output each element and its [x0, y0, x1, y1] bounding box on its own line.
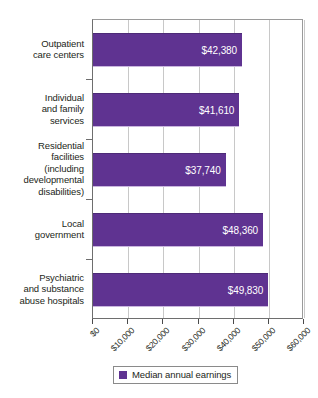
- bar-row: $49,830: [93, 273, 268, 307]
- legend-swatch-icon: [119, 371, 127, 379]
- bar-value-label: $37,740: [185, 165, 220, 176]
- bar-value-label: $41,610: [199, 105, 234, 116]
- chart-legend: Median annual earnings: [113, 366, 238, 384]
- category-label: Individualand familyservices: [0, 92, 84, 126]
- bar-value-label: $49,830: [228, 285, 263, 296]
- bar-value-label: $48,360: [223, 225, 258, 236]
- category-label: Localgovernment: [0, 218, 84, 241]
- legend-label: Median annual earnings: [132, 369, 231, 380]
- category-tick-mark: [86, 259, 92, 260]
- category-label: Outpatientcare centers: [0, 38, 84, 61]
- category-tick-mark: [86, 139, 92, 140]
- bar-row: $41,610: [93, 93, 239, 127]
- x-tick-label: $40,000: [215, 326, 242, 353]
- gridline: [269, 20, 270, 318]
- x-tick-mark: [303, 319, 304, 324]
- x-tick-mark: [233, 319, 234, 324]
- bar: $49,830: [93, 273, 268, 307]
- x-tick-label: $10,000: [109, 326, 136, 353]
- x-tick-label: $60,000: [285, 326, 312, 353]
- x-tick-label: $20,000: [145, 326, 172, 353]
- bar: $42,380: [93, 33, 242, 67]
- x-tick-label: $50,000: [250, 326, 277, 353]
- bar: $37,740: [93, 153, 226, 187]
- bar-value-label: $42,380: [202, 45, 237, 56]
- x-tick-mark: [162, 319, 163, 324]
- x-tick-label: $0: [89, 326, 102, 339]
- x-tick-label: $30,000: [180, 326, 207, 353]
- bar-row: $48,360: [93, 213, 263, 247]
- x-tick-mark: [127, 319, 128, 324]
- category-tick-mark: [86, 199, 92, 200]
- bar-row: $37,740: [93, 153, 226, 187]
- bar-chart: Outpatientcare centersIndividualand fami…: [0, 0, 318, 398]
- category-label: Residentialfacilities(includingdevelopme…: [0, 140, 84, 197]
- bar: $48,360: [93, 213, 263, 247]
- category-tick-mark: [86, 79, 92, 80]
- bar-row: $42,380: [93, 33, 242, 67]
- gridline: [304, 20, 305, 318]
- category-axis-labels: Outpatientcare centersIndividualand fami…: [0, 19, 88, 319]
- bar: $41,610: [93, 93, 239, 127]
- plot-area: $42,380$41,610$37,740$48,360$49,830: [92, 19, 303, 319]
- x-tick-mark: [198, 319, 199, 324]
- x-tick-mark: [92, 319, 93, 324]
- category-label: Psychiatricand substanceabuse hospitals: [0, 272, 84, 306]
- x-tick-mark: [268, 319, 269, 324]
